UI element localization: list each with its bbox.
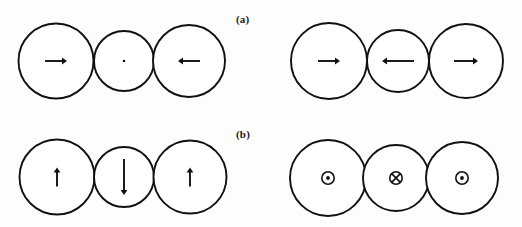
center-dot-icon bbox=[123, 60, 126, 63]
panel-b bbox=[20, 140, 499, 217]
atom-circle bbox=[429, 24, 503, 98]
atom-circle bbox=[154, 141, 227, 214]
out-of-page-dot-icon bbox=[326, 176, 330, 180]
group-a-right bbox=[291, 23, 503, 99]
panel-a bbox=[19, 23, 504, 99]
group-b-left bbox=[20, 140, 227, 215]
panel-label-b: (b) bbox=[236, 128, 250, 140]
atom-circle bbox=[291, 23, 367, 99]
group-a-left bbox=[19, 24, 226, 99]
atom-circle bbox=[94, 147, 154, 207]
group-b-right bbox=[290, 140, 498, 216]
atom-circle bbox=[153, 25, 225, 97]
spin-chain-figure: (a) (b) bbox=[0, 0, 522, 227]
atom-circle bbox=[290, 140, 366, 216]
atom-circle bbox=[94, 31, 154, 91]
atom-circle bbox=[426, 142, 498, 214]
out-of-page-dot-icon bbox=[460, 176, 464, 180]
atom-circle bbox=[20, 140, 95, 215]
figure-canvas bbox=[0, 0, 522, 227]
panel-label-a: (a) bbox=[236, 13, 249, 25]
atom-circle bbox=[367, 30, 429, 92]
atom-circle bbox=[363, 145, 429, 211]
atom-circle bbox=[19, 24, 94, 99]
